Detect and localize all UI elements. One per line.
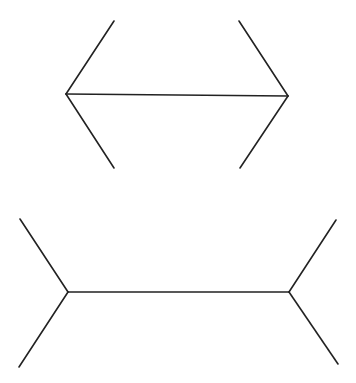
top-left-lower-fin	[66, 94, 114, 168]
bottom-left-upper-fin	[20, 219, 68, 292]
top-shaft	[66, 94, 288, 96]
top-right-lower-fin	[240, 96, 288, 168]
top-left-upper-fin	[66, 21, 114, 94]
bottom-right-lower-fin	[289, 292, 338, 364]
top-right-upper-fin	[239, 21, 288, 96]
bottom-left-lower-fin	[19, 292, 68, 367]
bottom-right-upper-fin	[289, 220, 336, 292]
figure-bottom-arrowheads-outward	[19, 219, 338, 367]
figure-top-arrowheads-inward	[66, 21, 288, 168]
illusion-canvas	[0, 0, 356, 383]
